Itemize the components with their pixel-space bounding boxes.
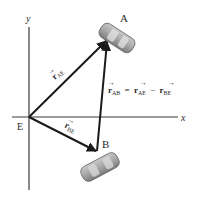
point-b-label: B bbox=[102, 138, 109, 150]
y-axis-label: y bbox=[25, 13, 31, 24]
point-a-label: A bbox=[120, 12, 128, 24]
svg-text:→: → bbox=[108, 79, 115, 87]
label-r-ae: rAE → bbox=[46, 62, 66, 82]
vector-r-be bbox=[29, 117, 96, 151]
label-r-be: rBE → bbox=[63, 115, 81, 135]
x-axis-label: x bbox=[180, 112, 186, 123]
origin-label: E bbox=[17, 121, 23, 132]
car-a bbox=[97, 21, 138, 55]
vector-r-ae bbox=[29, 41, 106, 117]
car-b bbox=[79, 151, 122, 184]
svg-text:→: → bbox=[168, 79, 175, 87]
equation-r-ab: rAB = rAE − rBE → → → bbox=[108, 79, 175, 97]
vector-diagram: x y E A B rAE → rBE → rAB = rAE − rBE bbox=[0, 0, 198, 201]
svg-text:→: → bbox=[140, 79, 147, 87]
vector-r-ab bbox=[97, 42, 107, 151]
